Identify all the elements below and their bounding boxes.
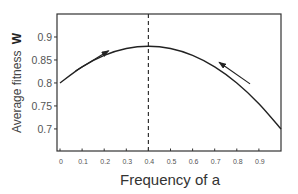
y-axis-title: Average fitness W — [10, 32, 24, 133]
y-axis-title-text: Average fitness — [10, 51, 24, 134]
x-tick-label: 0 — [59, 158, 63, 165]
x-tick-label: 0.5 — [167, 158, 177, 165]
x-tick-label: 0.2 — [100, 158, 110, 165]
annotations — [75, 14, 250, 151]
y-tick-label: 0.8 — [37, 77, 52, 89]
x-tick-label: 0.7 — [211, 158, 221, 165]
fitness-curve — [60, 46, 281, 129]
x-tick-label: 0.9 — [255, 158, 265, 165]
x-tick-label: 0.1 — [78, 158, 88, 165]
x-tick-label: 0.3 — [122, 158, 132, 165]
y-tick-label: 0.85 — [32, 54, 53, 66]
y-axis-ticks: 0.70.750.80.850.9 — [32, 31, 57, 135]
y-tick-label: 0.75 — [32, 100, 53, 112]
y-axis-title-symbol: W — [10, 32, 24, 44]
y-tick-label: 0.9 — [37, 31, 52, 43]
x-axis-title: Frequency of a — [120, 171, 221, 188]
fitness-chart: 00.10.20.30.40.50.60.70.80.9 0.70.750.80… — [0, 0, 298, 194]
series-group — [60, 46, 281, 129]
y-tick-label: 0.7 — [37, 123, 52, 135]
x-tick-label: 0.4 — [145, 158, 155, 165]
x-tick-label: 0.8 — [233, 158, 243, 165]
x-tick-label: 0.6 — [189, 158, 199, 165]
